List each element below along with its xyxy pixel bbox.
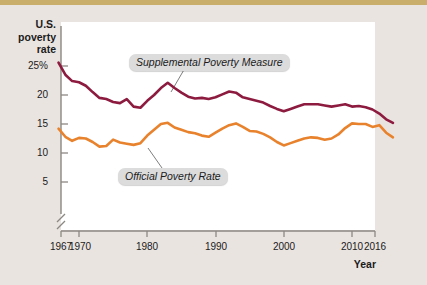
x-axis-title: Year (330, 258, 376, 271)
series-line-official-poverty-rate (59, 123, 393, 147)
poverty-rate-chart-figure: U.S. poverty rate Year 25% 20 15 10 5 19… (0, 0, 427, 285)
x-tick-marks (61, 231, 375, 237)
y-tick-label-5: 5 (14, 176, 48, 187)
x-tick-label-1990: 1990 (196, 241, 236, 252)
x-tick-label-1970: 1970 (60, 241, 100, 252)
y-tick-label-25: 25% (14, 60, 48, 71)
x-tick-label-2016: 2016 (355, 241, 395, 252)
y-tick-label-15: 15 (14, 118, 48, 129)
callout-leader-opr (148, 148, 162, 168)
x-tick-label-1980: 1980 (127, 241, 167, 252)
series-callout-supplemental-poverty-measure: Supplemental Poverty Measure (129, 54, 290, 71)
y-axis-break-icon (57, 214, 65, 229)
series-line-supplemental-poverty-measure (59, 63, 393, 123)
y-tick-marks (61, 66, 68, 182)
x-tick-label-2000: 2000 (264, 241, 304, 252)
y-tick-label-20: 20 (14, 89, 48, 100)
y-tick-label-10: 10 (14, 147, 48, 158)
series-callout-official-poverty-rate: Official Poverty Rate (118, 168, 228, 185)
y-axis-title: U.S. poverty rate (6, 18, 56, 56)
